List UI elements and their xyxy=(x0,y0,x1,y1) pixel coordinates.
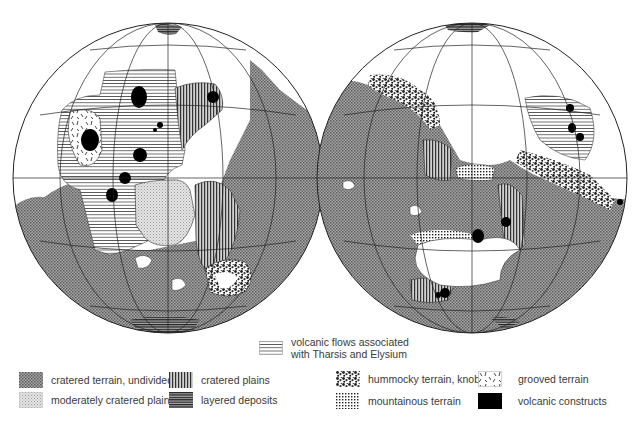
legend-label: hummocky terrain, knobby xyxy=(368,373,491,385)
legend-label: layered deposits xyxy=(201,394,277,406)
legend-label: cratered plains xyxy=(201,374,270,386)
legend-item-cratered-terrain: cratered terrain, undivided xyxy=(19,372,173,388)
legend-label: volcanic flows associated with Tharsis a… xyxy=(291,336,409,360)
legend-item-layered-deposits: layered deposits xyxy=(169,392,277,408)
legend-item-volcanic-flows: volcanic flows associated with Tharsis a… xyxy=(259,336,409,360)
legend-item-moderately-cratered-plains: moderately cratered plains xyxy=(19,392,175,408)
knobby-swatch xyxy=(336,371,360,387)
legend-label: grooved terrain xyxy=(518,373,589,385)
horizontal-lines-swatch xyxy=(259,341,283,355)
solid-black-swatch xyxy=(478,393,502,409)
legend-item-volcanic-constructs: volcanic constructs xyxy=(478,393,607,409)
vertical-lines-swatch xyxy=(169,372,193,388)
legend-item-grooved-terrain: grooved terrain xyxy=(478,371,589,387)
light-stipple-swatch xyxy=(19,392,43,408)
legend-item-mountainous-terrain: mountainous terrain xyxy=(336,393,461,409)
legend-label: volcanic constructs xyxy=(518,395,607,407)
grooved-swatch xyxy=(478,371,502,387)
cratered-terrain-swatch xyxy=(19,372,43,388)
legend-label: mountainous terrain xyxy=(368,395,461,407)
grid-dots-swatch xyxy=(336,393,360,409)
layered-deposits-swatch xyxy=(169,392,193,408)
eastern-hemisphere-globe xyxy=(300,23,639,341)
legend-item-cratered-plains: cratered plains xyxy=(169,372,270,388)
legend-item-hummocky-terrain: hummocky terrain, knobby xyxy=(336,371,491,387)
legend-label: moderately cratered plains xyxy=(51,394,175,406)
western-hemisphere-globe xyxy=(0,23,323,340)
layered-deposits-south xyxy=(130,316,200,335)
legend-label: cratered terrain, undivided xyxy=(51,374,173,386)
moderately-cratered-plains xyxy=(135,180,195,246)
hemisphere-maps xyxy=(0,0,639,340)
